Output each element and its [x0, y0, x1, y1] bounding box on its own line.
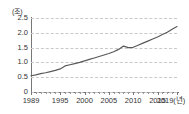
x-axis-tick-mark [94, 92, 95, 94]
x-axis-tick-mark [119, 92, 120, 94]
x-axis-major-tick-mark [31, 92, 32, 95]
x-axis-tick-label: 2019(년) [157, 96, 186, 105]
x-axis-tick-label: 1989 [23, 96, 40, 105]
x-axis-tick-mark [36, 92, 37, 94]
x-axis-tick-label: 2010 [125, 96, 142, 105]
x-axis-major-tick-mark [158, 92, 159, 95]
y-axis-tick-label: 0.5 [6, 73, 28, 81]
x-axis-major-tick-mark [109, 92, 110, 95]
x-axis-tick-mark [153, 92, 154, 94]
x-axis-tick-mark [148, 92, 149, 94]
y-axis-tick-label: 2.0 [6, 29, 28, 37]
x-axis-tick-mark [128, 92, 129, 94]
x-axis-tick-mark [172, 92, 173, 94]
x-axis-tick-labels: 1989199520002005201020152019(년) [0, 96, 189, 108]
y-axis-tick-label: 1.0 [6, 58, 28, 66]
x-axis-major-tick-mark [133, 92, 134, 95]
x-axis-tick-mark [167, 92, 168, 94]
x-axis-tick-label: 2000 [76, 96, 93, 105]
series-polyline [31, 27, 177, 76]
x-axis-tick-mark [143, 92, 144, 94]
x-axis-tick-label: 2005 [101, 96, 118, 105]
x-axis-tick-label: 1995 [52, 96, 69, 105]
x-axis-tick-mark [99, 92, 100, 94]
x-axis-tick-mark [70, 92, 71, 94]
line-chart: (조) 2.52.01.51.00.50 1989199520002005201… [0, 0, 189, 114]
x-axis-tick-mark [55, 92, 56, 94]
y-axis-tick-label: 0 [6, 88, 28, 96]
x-axis-major-tick-mark [60, 92, 61, 95]
x-axis-tick-mark [50, 92, 51, 94]
x-axis-tick-mark [162, 92, 163, 94]
x-axis-tick-mark [89, 92, 90, 94]
x-axis-tick-mark [123, 92, 124, 94]
x-axis-tick-mark [104, 92, 105, 94]
x-axis-tick-mark [138, 92, 139, 94]
x-axis-tick-mark [41, 92, 42, 94]
y-axis-tick-labels: 2.52.01.51.00.50 [6, 18, 28, 92]
x-axis-tick-mark [114, 92, 115, 94]
x-axis-tick-mark [65, 92, 66, 94]
x-axis-tick-mark [75, 92, 76, 94]
series-line [31, 18, 177, 92]
y-axis-tick-label: 2.5 [6, 14, 28, 22]
x-axis-major-tick-mark [85, 92, 86, 95]
x-axis-tick-mark [46, 92, 47, 94]
x-axis-major-tick-mark [177, 92, 178, 95]
y-axis-tick-label: 1.5 [6, 44, 28, 52]
x-axis-tick-mark [80, 92, 81, 94]
